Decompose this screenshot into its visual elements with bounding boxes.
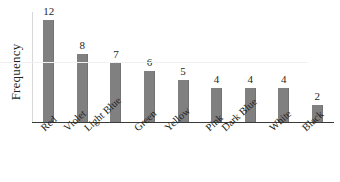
y-axis-label: Frequency <box>8 44 24 101</box>
x-tick-slot: White <box>267 123 301 181</box>
bar-value-label: 5 <box>180 66 186 77</box>
x-tick-slot: Green <box>133 123 167 181</box>
bar-value-label: 2 <box>315 91 321 102</box>
x-axis-tick-labels: RedVioletLight BlueGreenYellowPinkDark B… <box>32 123 334 181</box>
x-tick-slot: Black <box>301 123 335 181</box>
bar-value-label: 8 <box>80 40 86 51</box>
bar-value-label: 7 <box>113 49 119 60</box>
bar-value-label: 4 <box>247 74 253 85</box>
y-axis-label-container: Frequency <box>2 22 30 122</box>
bar[interactable] <box>43 20 54 122</box>
x-tick-slot: Dark Blue <box>233 123 267 181</box>
bar-value-label: 6 <box>147 57 153 68</box>
bar-value-label: 12 <box>43 6 54 17</box>
bar-slot: 6 <box>133 12 167 122</box>
bar[interactable] <box>110 63 121 122</box>
bar-value-label: 4 <box>214 74 220 85</box>
x-tick-slot: Violet <box>66 123 100 181</box>
x-tick-slot: Red <box>32 123 66 181</box>
bar-slot: 12 <box>32 12 66 122</box>
x-tick-slot: Light Blue <box>99 123 133 181</box>
bar-value-label: 4 <box>281 74 287 85</box>
bar-slot: 4 <box>200 12 234 122</box>
x-tick-slot: Yellow <box>166 123 200 181</box>
bar-slot: 4 <box>267 12 301 122</box>
frequency-bar-chart: Frequency 1287654442 RedVioletLight Blue… <box>0 0 340 182</box>
bar-slot: 2 <box>301 12 335 122</box>
bar-slot: 8 <box>66 12 100 122</box>
